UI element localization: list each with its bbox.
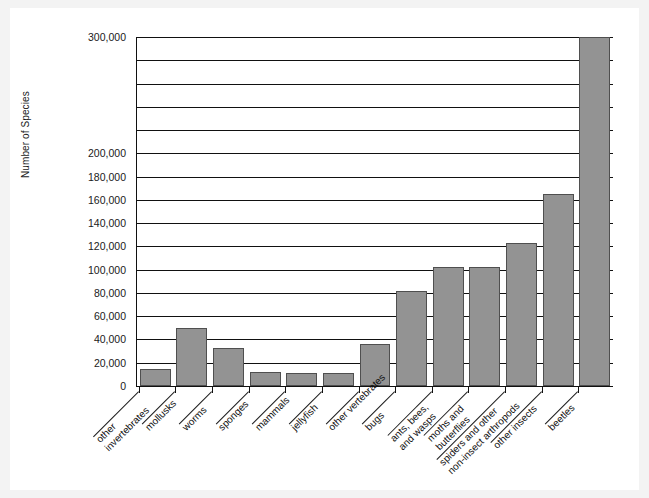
x-axis-tick: [468, 386, 469, 393]
y-tick-label: 20,000: [94, 358, 126, 368]
y-tick-label: 200,000: [88, 148, 126, 158]
bar: [286, 373, 317, 386]
page-edge-left: [0, 0, 10, 498]
x-axis-tick: [578, 386, 579, 393]
bar-series: [137, 37, 613, 386]
y-tick-label: 180,000: [88, 172, 126, 182]
bar: [543, 194, 574, 386]
plot-area: [136, 37, 613, 387]
y-tick-label: 300,000: [88, 32, 126, 42]
x-axis-category-labels: other invertebratesmolluskswormsspongesm…: [136, 386, 614, 498]
y-tick-label: 80,000: [94, 288, 126, 298]
species-bar-chart: Number of Species 020,00040,00060,00080,…: [0, 0, 649, 498]
bar: [213, 348, 244, 386]
x-axis-tick: [175, 386, 176, 393]
y-tick-label: 60,000: [94, 311, 126, 321]
page-edge-right: [639, 0, 649, 498]
y-tick-label: 140,000: [88, 218, 126, 228]
x-tick-label: bugs: [363, 409, 386, 432]
x-tick-label: sponges: [216, 398, 251, 433]
x-tick-label: mammals: [253, 394, 292, 433]
bar: [433, 267, 464, 386]
y-axis-title: Number of Species: [20, 38, 31, 178]
y-tick-label: 160,000: [88, 195, 126, 205]
bar: [176, 328, 207, 386]
bar: [579, 37, 610, 386]
y-tick-label: 100,000: [88, 265, 126, 275]
bar: [323, 373, 354, 386]
x-axis-tick: [212, 386, 213, 393]
bar: [396, 291, 427, 386]
bar: [506, 243, 537, 386]
y-tick-label: 40,000: [94, 334, 126, 344]
x-axis-tick: [395, 386, 396, 393]
bar: [469, 267, 500, 386]
x-axis-tick: [285, 386, 286, 393]
y-tick-label: 0: [120, 381, 126, 391]
bar: [140, 369, 171, 386]
y-tick-label: 120,000: [88, 241, 126, 251]
bar: [250, 372, 281, 386]
